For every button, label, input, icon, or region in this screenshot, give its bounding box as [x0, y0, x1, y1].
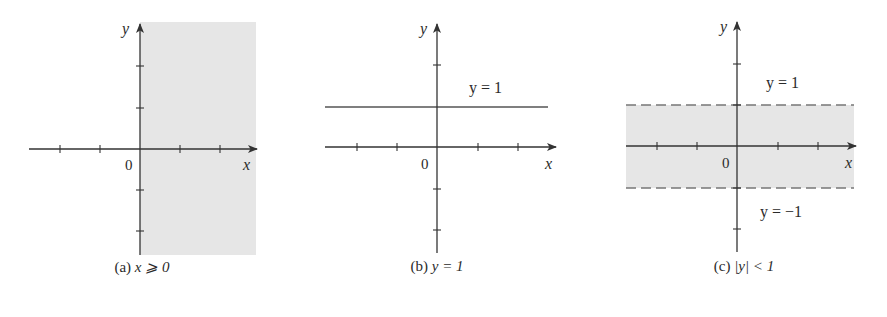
caption-prefix: (a)	[114, 259, 134, 275]
caption-prefix: (c)	[714, 258, 734, 274]
caption-prefix: (b)	[410, 258, 431, 274]
caption-math: y = 1	[432, 258, 464, 274]
upper-line-label: y = 1	[766, 74, 799, 92]
y-axis-label: y	[718, 18, 728, 36]
origin-label: 0	[125, 157, 133, 173]
panel-c: y x 0 y = 1 y = −1	[626, 18, 856, 252]
x-axis-label: x	[544, 155, 552, 172]
panel-a: y x 0	[29, 20, 257, 255]
shaded-region-x-nonnegative	[140, 22, 256, 255]
lower-line-label: y = −1	[760, 203, 802, 221]
caption-a: (a) x ⩾ 0	[114, 258, 169, 276]
caption-c: (c) |y| < 1	[714, 258, 774, 275]
caption-math: |y| < 1	[734, 258, 774, 274]
origin-label: 0	[722, 155, 730, 171]
origin-label: 0	[421, 156, 429, 172]
y-axis-label: y	[418, 20, 428, 38]
caption-math: x ⩾ 0	[135, 259, 170, 275]
x-axis-label: x	[844, 154, 852, 171]
caption-b: (b) y = 1	[410, 258, 463, 275]
x-axis-label: x	[242, 156, 250, 173]
panel-b: y x 0 y = 1	[325, 20, 556, 253]
line-label: y = 1	[469, 79, 502, 97]
y-axis-label: y	[120, 20, 130, 38]
